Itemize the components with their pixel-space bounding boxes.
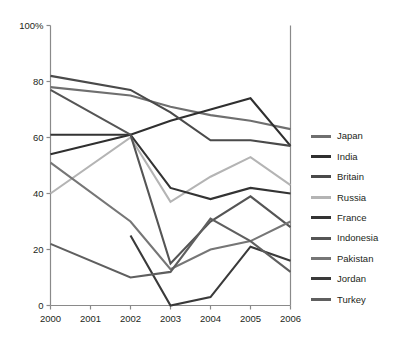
y-tick-label: 100% — [19, 20, 44, 31]
series-line-pakistan — [51, 163, 291, 269]
y-tick-label: 0 — [38, 300, 43, 311]
series-line-russia — [51, 138, 291, 202]
legend-item-britain[interactable]: Britain — [311, 167, 403, 187]
legend-item-label: Britain — [337, 172, 364, 182]
legend-item-label: India — [337, 152, 358, 162]
series-lines — [51, 76, 291, 306]
legend-item-pakistan[interactable]: Pakistan — [311, 248, 403, 268]
legend-item-jordan[interactable]: Jordan — [311, 269, 403, 289]
legend-swatch-icon — [311, 135, 331, 138]
legend-item-label: Japan — [337, 131, 363, 141]
legend-swatch-icon — [311, 298, 331, 301]
series-line-jordan — [131, 236, 291, 306]
legend-swatch-icon — [311, 196, 331, 199]
legend: JapanIndiaBritainRussiaFranceIndonesiaPa… — [311, 126, 403, 310]
x-tick-label: 2002 — [120, 313, 141, 324]
legend-item-label: Indonesia — [337, 233, 378, 243]
x-tick-label: 2006 — [280, 313, 301, 324]
legend-item-turkey[interactable]: Turkey — [311, 289, 403, 309]
y-tick-label: 40 — [33, 188, 44, 199]
legend-item-russia[interactable]: Russia — [311, 187, 403, 207]
legend-swatch-icon — [311, 216, 331, 219]
y-tick-label: 80 — [33, 76, 44, 87]
legend-item-label: France — [337, 213, 367, 223]
legend-item-label: Turkey — [337, 295, 366, 305]
y-tick-label: 60 — [33, 132, 44, 143]
legend-item-india[interactable]: India — [311, 146, 403, 166]
x-tick-label: 2004 — [200, 313, 221, 324]
legend-swatch-icon — [311, 277, 331, 280]
series-line-indonesia — [51, 90, 291, 264]
legend-item-japan[interactable]: Japan — [311, 126, 403, 146]
legend-swatch-icon — [311, 155, 331, 158]
legend-item-indonesia[interactable]: Indonesia — [311, 228, 403, 248]
x-tick-label: 2003 — [160, 313, 181, 324]
x-tick-label: 2005 — [240, 313, 261, 324]
y-axis: 020406080100% — [19, 20, 50, 311]
x-tick-label: 2001 — [80, 313, 101, 324]
x-tick-label: 2000 — [40, 313, 61, 324]
legend-item-label: Russia — [337, 193, 366, 203]
line-chart: 020406080100% 20002001200220032004200520… — [0, 0, 405, 355]
legend-item-label: Pakistan — [337, 254, 373, 264]
y-tick-label: 20 — [33, 244, 44, 255]
legend-swatch-icon — [311, 257, 331, 260]
legend-swatch-icon — [311, 175, 331, 178]
legend-item-label: Jordan — [337, 274, 366, 284]
series-line-japan — [51, 87, 291, 129]
legend-swatch-icon — [311, 237, 331, 240]
legend-item-france[interactable]: France — [311, 208, 403, 228]
